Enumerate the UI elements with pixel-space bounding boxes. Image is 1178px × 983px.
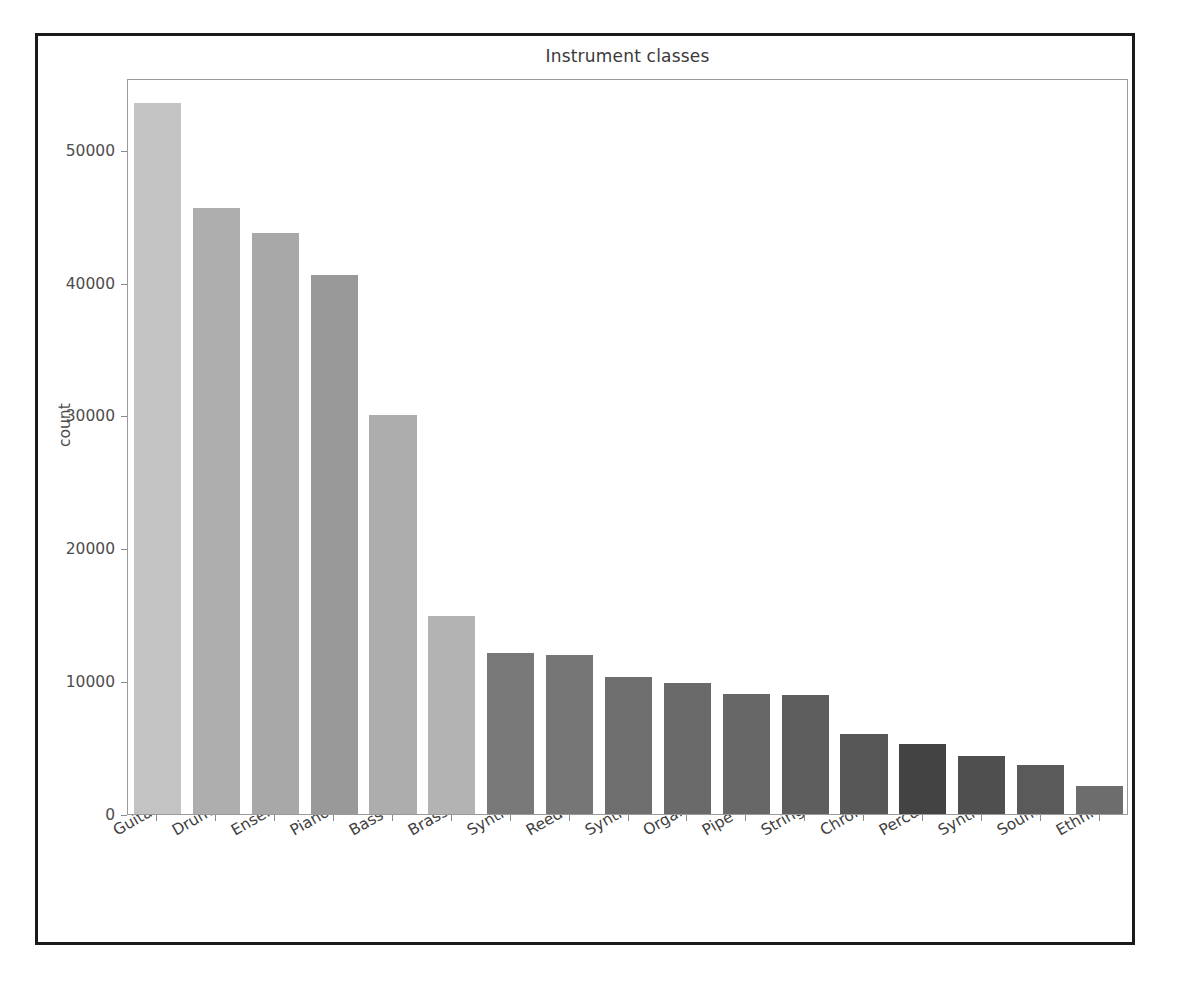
- bar: [193, 208, 240, 814]
- x-tick-mark: [745, 815, 746, 821]
- bar: [1076, 786, 1123, 814]
- y-tick-label: 50000: [66, 142, 115, 160]
- y-tick-label: 10000: [66, 673, 115, 691]
- bar: [840, 734, 887, 814]
- x-tick-mark: [333, 815, 334, 821]
- bar: [782, 695, 829, 814]
- bar: [605, 677, 652, 814]
- chart-page: Instrument classes count 010000200003000…: [0, 0, 1178, 983]
- x-tick-mark: [392, 815, 393, 821]
- y-tick-label: 40000: [66, 275, 115, 293]
- bar: [134, 103, 181, 814]
- bar: [1017, 765, 1064, 814]
- x-tick-mark: [569, 815, 570, 821]
- bar: [428, 616, 475, 814]
- bar: [369, 415, 416, 814]
- bar: [546, 655, 593, 814]
- bar: [311, 275, 358, 814]
- plot-axes: [127, 79, 1128, 815]
- bar: [487, 653, 534, 814]
- plot-area: [128, 80, 1127, 814]
- bar: [899, 744, 946, 814]
- y-tick-label: 20000: [66, 540, 115, 558]
- bar: [664, 683, 711, 814]
- bar: [723, 694, 770, 814]
- page-title: Instrument classes: [127, 46, 1128, 66]
- y-tick-label: 30000: [66, 407, 115, 425]
- bar: [958, 756, 1005, 814]
- bar: [252, 233, 299, 814]
